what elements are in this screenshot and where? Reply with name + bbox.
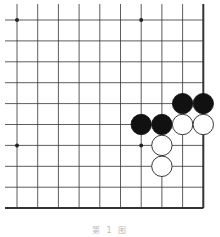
white-stone	[152, 135, 172, 155]
black-stone	[131, 114, 151, 134]
black-stone	[152, 114, 172, 134]
star-point	[139, 143, 143, 147]
go-board	[0, 0, 220, 220]
star-point	[15, 143, 19, 147]
white-stone	[152, 156, 172, 176]
black-stone	[193, 93, 213, 113]
white-stone	[172, 114, 192, 134]
star-point	[15, 18, 19, 22]
white-stone	[193, 114, 213, 134]
black-stone	[172, 93, 192, 113]
diagram-caption: 第 1 图	[0, 224, 220, 235]
star-point	[139, 18, 143, 22]
